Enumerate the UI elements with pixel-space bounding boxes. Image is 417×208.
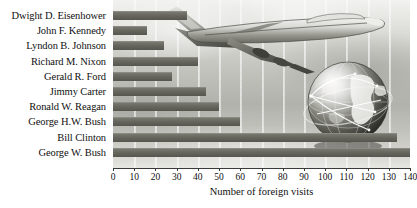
bar-row — [113, 145, 410, 160]
category-label: Gerald R. Ford — [0, 69, 110, 84]
tick-mark — [283, 168, 284, 171]
bar-row — [113, 114, 410, 129]
tick-label: 50 — [214, 172, 224, 182]
tick-label: 80 — [278, 172, 288, 182]
tick-mark — [177, 168, 178, 171]
tick-label: 100 — [318, 172, 332, 182]
plot-area — [113, 0, 410, 168]
bar-row — [113, 23, 410, 38]
category-label: Ronald W. Reagan — [0, 99, 110, 114]
bar — [113, 72, 172, 81]
bar-row — [113, 130, 410, 145]
tick-label: 30 — [172, 172, 182, 182]
bar — [113, 102, 219, 111]
tick-mark — [410, 168, 411, 171]
bar-row — [113, 54, 410, 69]
bar-chart: Dwight D. EisenhowerJohn F. KennedyLyndo… — [0, 0, 417, 208]
bar-row — [113, 38, 410, 53]
category-axis-labels: Dwight D. EisenhowerJohn F. KennedyLyndo… — [0, 8, 110, 160]
tick-label: 140 — [403, 172, 417, 182]
bar-row — [113, 8, 410, 23]
tick-label: 110 — [339, 172, 353, 182]
category-label: John F. Kennedy — [0, 23, 110, 38]
bar — [113, 133, 397, 142]
bar — [113, 41, 164, 50]
tick-label: 120 — [360, 172, 374, 182]
bar — [113, 11, 187, 20]
tick-label: 70 — [257, 172, 267, 182]
tick-mark — [219, 168, 220, 171]
tick-mark — [368, 168, 369, 171]
tick-mark — [198, 168, 199, 171]
category-label: George H.W. Bush — [0, 114, 110, 129]
category-label: George W. Bush — [0, 145, 110, 160]
tick-mark — [155, 168, 156, 171]
category-label: Richard M. Nixon — [0, 54, 110, 69]
tick-label: 20 — [151, 172, 161, 182]
bar-row — [113, 84, 410, 99]
tick-label: 60 — [236, 172, 246, 182]
tick-mark — [389, 168, 390, 171]
tick-label: 90 — [299, 172, 309, 182]
tick-mark — [346, 168, 347, 171]
bar — [113, 26, 147, 35]
bar — [113, 87, 206, 96]
category-label: Jimmy Carter — [0, 84, 110, 99]
bar — [113, 57, 198, 66]
bar — [113, 148, 410, 157]
tick-mark — [262, 168, 263, 171]
tick-label: 130 — [382, 172, 396, 182]
tick-mark — [113, 168, 114, 171]
bar — [113, 117, 240, 126]
tick-label: 0 — [111, 172, 116, 182]
category-label: Dwight D. Eisenhower — [0, 8, 110, 23]
bar-row — [113, 69, 410, 84]
category-label: Bill Clinton — [0, 130, 110, 145]
tick-mark — [304, 168, 305, 171]
bars-layer — [113, 8, 410, 160]
category-label: Lyndon B. Johnson — [0, 38, 110, 53]
tick-mark — [240, 168, 241, 171]
tick-label: 40 — [193, 172, 203, 182]
tick-label: 10 — [129, 172, 139, 182]
x-axis-title: Number of foreign visits — [113, 186, 410, 197]
tick-mark — [134, 168, 135, 171]
tick-mark — [325, 168, 326, 171]
bar-row — [113, 99, 410, 114]
